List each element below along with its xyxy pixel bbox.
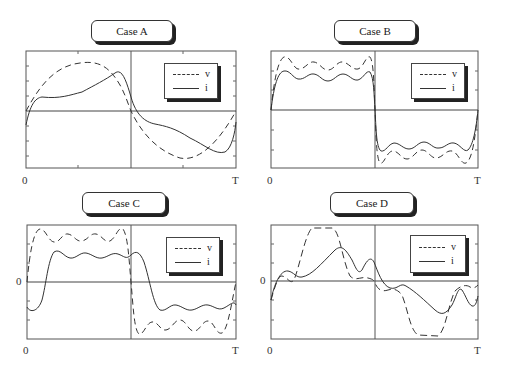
- legend-label-v: v: [451, 241, 456, 253]
- legend-dashed-line-icon: [419, 247, 445, 248]
- legend-label-i: i: [451, 255, 454, 267]
- plot-area: [0, 0, 505, 369]
- legend-solid-line-icon: [419, 261, 445, 262]
- y-axis-zero-label: 0: [260, 274, 266, 286]
- x-axis-start-label: 0: [267, 344, 273, 356]
- x-axis-end-label: T: [474, 344, 481, 356]
- panel-case-d: Case D v i 0 0 T: [0, 0, 505, 369]
- legend: v i: [410, 235, 466, 273]
